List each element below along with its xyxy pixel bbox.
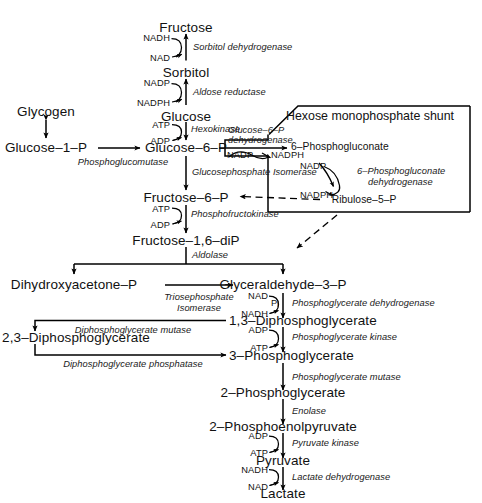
enzyme-lactate-dehydrogenase: Lactate dehydrogenase bbox=[292, 472, 390, 483]
enzyme-enolase: Enolase bbox=[292, 406, 326, 417]
cofactor-nadph-6pgd: NADPH bbox=[300, 191, 333, 200]
enzyme-phosphoglycerate-kinase: Phosphoglycerate kinase bbox=[292, 332, 397, 343]
enzyme-glucosephosphate-isomerase: Glucosephosphate Isomerase bbox=[192, 167, 317, 178]
metabolite-fructose-1-6-dip: Fructose–1,6–diP bbox=[132, 234, 239, 248]
enzyme-aldolase: Aldolase bbox=[192, 250, 228, 261]
dashed-arrow-ribulose5p-to-gap bbox=[297, 215, 337, 248]
cofactor-adp-pfk: ADP bbox=[151, 221, 170, 230]
enzyme-phosphoglucomutase: Phosphoglucomutase bbox=[78, 157, 168, 168]
cofactor-nadph-g6pd: NADPH bbox=[271, 151, 304, 160]
cofactor-nad-gapdh: NAD bbox=[248, 292, 268, 301]
metabolite-3-phosphoglycerate: 3–Phosphoglycerate bbox=[229, 349, 354, 363]
metabolite-glyceraldehyde-3-p: Glyceraldehyde–3–P bbox=[219, 278, 346, 292]
metabolite-glucose-6-p: Glucose–6–P bbox=[145, 141, 227, 155]
metabolite-6-phosphogluconate: 6–Phosphogluconate bbox=[291, 142, 389, 152]
metabolite-2-phosphoenolpyruvate: 2–Phosphoenolpyruvate bbox=[209, 420, 357, 434]
cofactor-nadh-ldh: NADH bbox=[241, 466, 268, 475]
metabolite-2-phosphoglycerate: 2–Phosphoglycerate bbox=[221, 386, 346, 400]
cofactor-adp-pyruvate-kinase: ADP bbox=[249, 432, 268, 441]
enzyme-aldose-reductase: Aldose reductase bbox=[193, 87, 266, 98]
enzyme-triosephosphate-isomerase-line2: Isomerase bbox=[177, 303, 221, 314]
enzyme-diphosphoglycerate-phosphatase: Diphosphoglycerate phosphatase bbox=[63, 359, 203, 370]
cofactor-nadp-6pgd: NADP bbox=[300, 162, 326, 171]
cofactor-atp-hexokinase: ATP bbox=[152, 121, 170, 130]
metabolite-fructose-6-p: Fructose–6–P bbox=[143, 191, 228, 205]
enzyme-phosphoglycerate-dehydrogenase: Phosphoglycerate dehydrogenase bbox=[292, 298, 435, 309]
arrow-23bpg-to-3pg bbox=[35, 344, 226, 355]
cofactor-atp-pfk: ATP bbox=[152, 205, 170, 214]
enzyme-pyruvate-kinase: Pyruvate kinase bbox=[292, 438, 359, 449]
enzyme-6-phosphogluconate-dehydrogenase-line1: 6–Phosphogluconate bbox=[357, 166, 445, 177]
cofactor-curve-sorbitol-dehydrogenase bbox=[172, 39, 182, 58]
cofactor-curve-aldose-reductase bbox=[172, 84, 182, 103]
pathway-diagram: Fructose NADH NAD Sorbitol dehydrogenase… bbox=[0, 0, 482, 503]
cofactor-nadh-sorbitol-dh: NADH bbox=[143, 34, 170, 43]
cofactor-nadph-aldose-reductase: NADPH bbox=[137, 99, 170, 108]
cofactor-pi-gapdh: Pi bbox=[271, 299, 279, 309]
cofactor-adp-pgk: ADP bbox=[249, 326, 268, 335]
cofactor-nadp-g6pd: NADP bbox=[227, 151, 253, 160]
cofactor-nad-sorbitol-dh: NAD bbox=[150, 54, 170, 63]
enzyme-sorbitol-dehydrogenase: Sorbitol dehydrogenase bbox=[193, 42, 292, 53]
enzyme-6-phosphogluconate-dehydrogenase-line2: dehydrogenase bbox=[368, 177, 433, 188]
cofactor-nadp-aldose-reductase: NADP bbox=[144, 79, 170, 88]
enzyme-phosphoglycerate-mutase: Phosphoglycerate mutase bbox=[292, 372, 401, 383]
metabolite-ribulose-5-p: Ribulose–5–P bbox=[332, 195, 397, 205]
metabolite-lactate: Lactate bbox=[261, 487, 306, 501]
hmp-shunt-title: Hexose monophosphate shunt bbox=[286, 110, 454, 122]
metabolite-dihydroxyacetone-p: Dihydroxyacetone–P bbox=[11, 278, 137, 292]
metabolite-2-3-diphosphoglycerate: 2,3–Diphosphoglycerate bbox=[2, 331, 150, 345]
enzyme-phosphofructokinase: Phosphofructokinase bbox=[191, 209, 279, 220]
enzyme-triosephosphate-isomerase-line1: Triosephosphate bbox=[164, 292, 233, 303]
metabolite-glycogen: Glycogen bbox=[17, 105, 75, 119]
enzyme-glucose-6-p-dehydrogenase-line2: dehydrogenase bbox=[228, 135, 293, 146]
metabolite-glucose-1-p: Glucose–1–P bbox=[5, 141, 87, 155]
